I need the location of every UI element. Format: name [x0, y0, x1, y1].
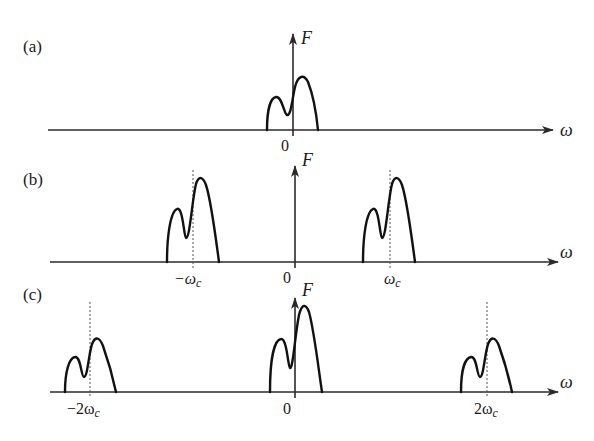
spectrum-curve-b-pos-wc — [363, 178, 415, 262]
spectrum-curve-c-zero — [270, 306, 322, 392]
x-axis-label-a: ω — [560, 120, 573, 140]
panel-label-c: (c) — [23, 285, 42, 304]
y-axis-label-c: F — [301, 280, 314, 300]
tick-zero-a: 0 — [281, 137, 289, 154]
panel-label-a: (a) — [23, 37, 42, 56]
y-axis-label-a: F — [300, 28, 313, 48]
panel-b: (b) F ω 0 −ωc ωc — [23, 150, 573, 290]
panel-a: (a) F ω 0 — [23, 28, 573, 154]
tick-zero-b: 0 — [283, 269, 291, 286]
spectrum-diagram: (a) F ω 0 (b) F ω 0 −ωc ωc (c) F ω 0 — [0, 0, 594, 441]
diagram-svg: (a) F ω 0 (b) F ω 0 −ωc ωc (c) F ω 0 — [0, 0, 594, 441]
tick-neg-2wc: −2ωc — [67, 400, 101, 420]
tick-zero-c: 0 — [283, 400, 291, 417]
x-axis-label-c: ω — [560, 372, 573, 392]
y-axis-label-b: F — [301, 150, 314, 170]
x-axis-label-b: ω — [560, 242, 573, 262]
tick-pos-2wc: 2ωc — [474, 400, 499, 420]
tick-neg-wc: −ωc — [174, 270, 202, 290]
panel-label-b: (b) — [23, 170, 43, 189]
tick-pos-wc: ωc — [384, 270, 401, 290]
panel-c: (c) F ω 0 −2ωc 2ωc — [23, 280, 573, 420]
